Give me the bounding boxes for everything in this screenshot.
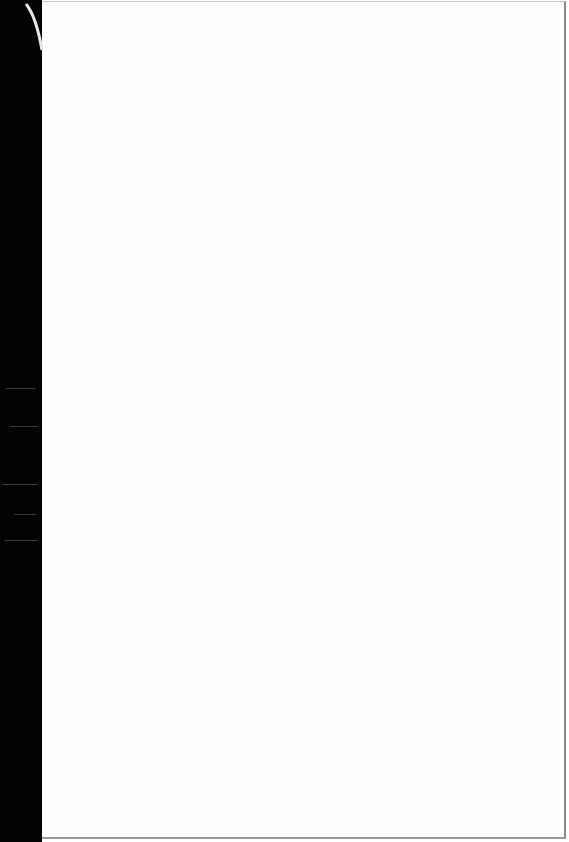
scan-streak: [2, 484, 38, 485]
scanner-background: [0, 0, 42, 842]
scan-streak: [6, 388, 36, 389]
scan-streak: [4, 540, 38, 541]
page-curl-icon: [24, 2, 48, 52]
scan-streak: [10, 426, 38, 427]
scan-streak: [14, 514, 36, 515]
blank-page: [42, 1, 566, 839]
